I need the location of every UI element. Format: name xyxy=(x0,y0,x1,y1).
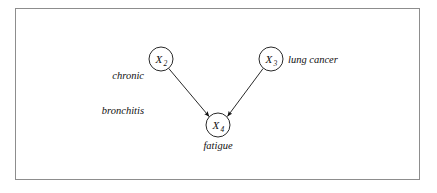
node-x3[interactable]: X 3 xyxy=(259,47,283,71)
node-x4[interactable]: X 4 xyxy=(206,113,230,137)
node-x2-subscript: 2 xyxy=(164,59,168,68)
node-x2-label-line-1: chronic xyxy=(86,70,144,82)
node-x4-var: X xyxy=(212,119,221,131)
node-x2[interactable]: X 2 xyxy=(149,47,173,71)
edge-x2-to-x4 xyxy=(169,68,210,116)
node-x3-var: X xyxy=(265,53,274,65)
edge-x3-to-x4 xyxy=(227,69,263,117)
node-x4-subscript: 4 xyxy=(221,125,225,134)
node-x2-var: X xyxy=(155,53,164,65)
node-x3-subscript: 3 xyxy=(273,59,278,68)
figure-root: X 2 X 3 X 4 chronic bronchitis lung canc… xyxy=(0,0,437,193)
dag-canvas: X 2 X 3 X 4 xyxy=(0,0,437,193)
node-x3-label: lung cancer xyxy=(288,54,338,66)
node-x4-label: fatigue xyxy=(188,140,248,152)
node-x2-label-line-2: bronchitis xyxy=(86,105,144,117)
node-x2-label: chronic bronchitis xyxy=(86,47,144,139)
